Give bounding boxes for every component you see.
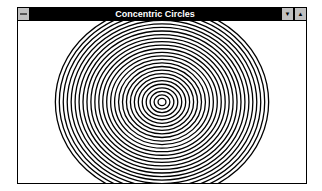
client-area xyxy=(18,20,306,183)
minimize-button[interactable]: ▼ xyxy=(281,8,293,20)
maximize-button[interactable]: ▲ xyxy=(294,8,306,20)
window-title: Concentric Circles xyxy=(30,8,280,20)
concentric-circles-canvas xyxy=(18,21,306,183)
minimize-icon: ▼ xyxy=(285,11,291,17)
app-window: Concentric Circles ▼ ▲ xyxy=(17,7,307,184)
system-menu-icon xyxy=(20,13,27,15)
system-menu-button[interactable] xyxy=(18,8,30,20)
maximize-icon: ▲ xyxy=(298,11,304,17)
title-bar[interactable]: Concentric Circles ▼ ▲ xyxy=(18,8,306,20)
